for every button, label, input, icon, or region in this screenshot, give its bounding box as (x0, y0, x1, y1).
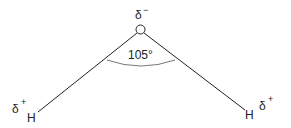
left-hydrogen-charge-sign: + (21, 98, 26, 107)
left-hydrogen-charge-delta: δ (12, 103, 19, 115)
right-bond (144, 33, 245, 110)
left-bond (38, 33, 137, 112)
oxygen-atom-circle (136, 25, 145, 34)
right-hydrogen-charge-sign: + (268, 95, 273, 104)
left-hydrogen-symbol: H (27, 112, 36, 124)
bond-angle-label: 105° (128, 49, 153, 61)
right-hydrogen-charge-delta: δ (259, 100, 266, 112)
oxygen-charge-sign: − (143, 6, 148, 15)
right-hydrogen-symbol: H (245, 109, 254, 121)
oxygen-charge-delta: δ (135, 9, 142, 21)
